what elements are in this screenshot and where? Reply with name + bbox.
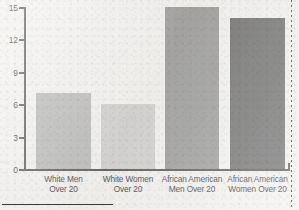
bar-1 — [36, 93, 91, 169]
y-tick-mark-15 — [19, 7, 26, 9]
y-tick-mark-6 — [19, 104, 26, 106]
y-tick-mark-0 — [19, 169, 26, 171]
category-label-4: African AmericanWomen Over 20 — [221, 174, 294, 194]
category-label-line1: African American — [162, 174, 222, 184]
bar-2 — [101, 104, 155, 169]
category-label-1: White MenOver 20 — [27, 174, 100, 194]
category-label-3: African AmericanMen Over 20 — [156, 174, 228, 194]
y-tick-label-3: 3 — [0, 134, 18, 143]
category-label-2: White WomenOver 20 — [92, 174, 164, 194]
category-label-line1: White Women — [103, 174, 153, 184]
category-label-line2: Over 20 — [92, 184, 164, 194]
y-tick-label-9: 9 — [0, 69, 18, 78]
y-tick-mark-3 — [19, 137, 26, 139]
y-tick-mark-12 — [19, 39, 26, 41]
x-axis-end-tick — [288, 163, 290, 171]
y-tick-label-6: 6 — [0, 101, 18, 110]
category-label-line2: Over 20 — [27, 184, 100, 194]
y-tick-label-15: 15 — [0, 4, 18, 13]
y-tick-label-12: 12 — [0, 36, 18, 45]
y-tick-label-0: 0 — [0, 166, 18, 175]
bar-chart: 15129630 White MenOver 20White WomenOver… — [0, 0, 299, 210]
category-label-line2: Men Over 20 — [156, 184, 228, 194]
bar-4 — [230, 18, 285, 169]
category-label-line1: White Men — [44, 174, 82, 184]
category-label-line1: African American — [227, 174, 287, 184]
category-label-line2: Women Over 20 — [221, 184, 294, 194]
y-tick-mark-9 — [19, 72, 26, 74]
chart-page: 15129630 White MenOver 20White WomenOver… — [0, 0, 299, 210]
x-axis-line — [24, 169, 290, 171]
y-axis-line — [24, 8, 26, 171]
page-bottom-rule — [2, 204, 113, 205]
page-dotted-rule — [291, 0, 292, 210]
bar-3 — [165, 7, 219, 169]
